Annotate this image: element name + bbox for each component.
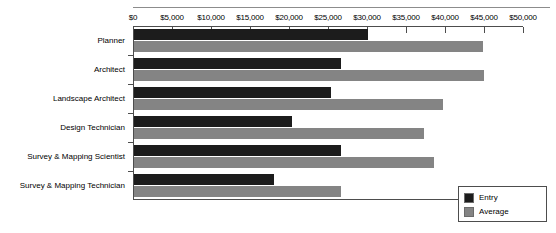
legend-swatch-icon (464, 207, 474, 217)
y-axis-category-label: Planner (97, 36, 125, 46)
top-divider-rule (133, 7, 550, 8)
bar-average-0 (134, 41, 483, 52)
x-axis-tick-mark (445, 27, 446, 33)
y-axis-category-label-column: PlannerArchitectLandscape ArchitectDesig… (0, 26, 129, 200)
y-axis-category-label: Architect (94, 65, 125, 75)
y-axis-category-label: Survey & Mapping Scientist (27, 152, 125, 162)
x-axis-tick-label: $15,000 (236, 12, 264, 24)
bar-entry-2 (134, 87, 331, 98)
bar-average-4 (134, 157, 434, 168)
bar-average-1 (134, 70, 484, 81)
legend-swatch-icon (464, 193, 474, 203)
bar-entry-0 (134, 29, 368, 40)
bar-average-5 (134, 186, 341, 197)
y-axis-tick-mark (128, 142, 134, 143)
x-axis-tick-label: $0 (129, 12, 138, 24)
y-axis-category-label: Survey & Mapping Technician (20, 181, 125, 191)
x-axis-tick-mark (406, 27, 407, 33)
legend-item-entry[interactable]: Entry (464, 191, 498, 204)
plot-area (133, 26, 523, 200)
legend-item-average[interactable]: Average (464, 205, 509, 218)
x-axis-tick-label: $50,000 (509, 12, 537, 24)
x-axis-tick-label: $25,000 (314, 12, 342, 24)
bar-entry-3 (134, 116, 292, 127)
bar-entry-5 (134, 174, 274, 185)
y-axis-tick-mark (128, 84, 134, 85)
x-axis-tick-label: $30,000 (353, 12, 381, 24)
x-axis-tick-label: $40,000 (431, 12, 459, 24)
y-axis-category-label: Landscape Architect (53, 94, 125, 104)
y-axis-tick-mark (128, 113, 134, 114)
x-axis-tick-label: $10,000 (197, 12, 225, 24)
y-axis-category-label: Design Technician (60, 123, 125, 133)
chart-legend: EntryAverage (458, 186, 547, 222)
bar-entry-1 (134, 58, 341, 69)
x-axis-tick-label-row: $0$5,000$10,000$15,000$20,000$25,000$30,… (0, 12, 556, 25)
x-axis-tick-label: $20,000 (275, 12, 303, 24)
x-axis-tick-label: $45,000 (470, 12, 498, 24)
legend-label: Entry (479, 193, 498, 203)
y-axis-tick-mark (128, 55, 134, 56)
bar-entry-4 (134, 145, 341, 156)
x-axis-tick-label: $35,000 (392, 12, 420, 24)
y-axis-tick-mark (128, 171, 134, 172)
legend-label: Average (479, 207, 509, 217)
bar-average-3 (134, 128, 424, 139)
horizontal-bar-chart: $0$5,000$10,000$15,000$20,000$25,000$30,… (0, 0, 556, 233)
x-axis-tick-mark (484, 27, 485, 33)
x-axis-tick-mark (523, 27, 524, 33)
x-axis-tick-label: $5,000 (160, 12, 183, 24)
bar-average-2 (134, 99, 443, 110)
